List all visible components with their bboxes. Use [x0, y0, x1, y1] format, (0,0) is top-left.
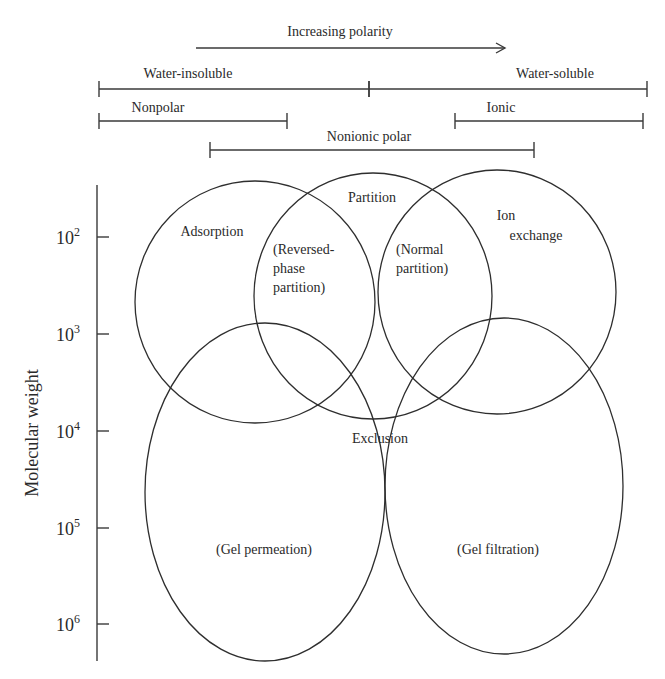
range-label: Water-soluble: [516, 66, 594, 81]
range-water-soluble: Water-soluble: [369, 66, 647, 97]
sublabel-reversed-phase-partition: (Reversed-phasepartition): [273, 242, 335, 296]
partition-circle: [254, 173, 492, 419]
sub-mode-labels: (Reversed-phasepartition)(Normalpartitio…: [273, 242, 448, 446]
polarity-label: Increasing polarity: [287, 24, 392, 39]
range-nonionic-polar: Nonionic polar: [210, 129, 534, 158]
region-label: Ion: [497, 208, 516, 223]
axis-tick-label: 104: [56, 419, 80, 442]
range-label: Water-insoluble: [144, 66, 233, 81]
region-label: exchange: [510, 228, 563, 243]
axis-tick-label: 102: [56, 225, 80, 248]
axis-tick-label: 105: [56, 516, 80, 539]
range-nonpolar: Nonpolar: [99, 100, 287, 129]
sublabel-normal-partition: (Normalpartition): [396, 242, 448, 277]
gel-filtration-ellipse: [385, 318, 623, 654]
range-label: Ionic: [487, 100, 516, 115]
region-label: (Gel filtration): [457, 542, 539, 558]
solubility-polarity-ranges: Water-insolubleWater-solubleNonpolarIoni…: [99, 66, 647, 158]
region-label: Adsorption: [181, 224, 244, 239]
axis-tick-label: 106: [56, 612, 80, 635]
range-label: Nonpolar: [132, 100, 185, 115]
sublabel-exclusion: Exclusion: [352, 431, 408, 446]
region-partition: Partition: [254, 173, 492, 419]
range-label: Nonionic polar: [327, 129, 412, 144]
range-ionic: Ionic: [455, 100, 643, 129]
region-gel-permeation: (Gel permeation): [145, 323, 385, 661]
region-label: Partition: [348, 190, 396, 205]
axis-tick-label: 103: [56, 322, 80, 345]
separation-methods-diagram: Increasing polarity Water-insolubleWater…: [0, 0, 665, 679]
region-label: (Gel permeation): [216, 542, 312, 558]
molecular-weight-axis: Molecular weight 102103104105106: [22, 185, 109, 661]
chromatography-regions: AdsorptionPartitionIonexchange(Gel perme…: [135, 170, 623, 661]
region-gel-filtration: (Gel filtration): [385, 318, 623, 654]
polarity-arrow: Increasing polarity: [196, 24, 505, 53]
range-water-insoluble: Water-insoluble: [99, 66, 369, 97]
gel-permeation-ellipse: [145, 323, 385, 661]
axis-title: Molecular weight: [22, 369, 42, 496]
